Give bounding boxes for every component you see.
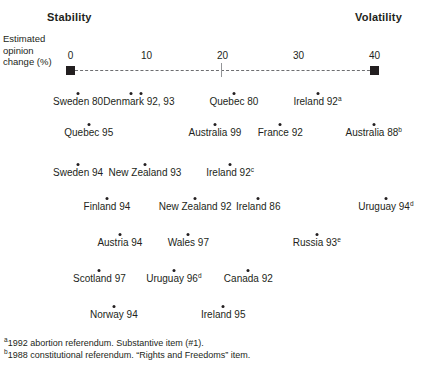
data-point-label: Ireland 86 — [236, 201, 280, 213]
x-axis-tick-label: 40 — [369, 50, 380, 61]
axis-tick-mark-20 — [221, 63, 222, 77]
footnote-item: b1988 constitutional referendum. “Rights… — [4, 349, 424, 361]
data-point-label: Quebec 95 — [64, 127, 113, 139]
data-point-label: France 92 — [258, 127, 303, 139]
data-point-label: Ireland 92a — [293, 96, 341, 108]
data-point-dot — [187, 233, 190, 236]
data-point-dot — [130, 92, 133, 95]
data-point-dot — [143, 163, 146, 166]
footnote-marker: d — [198, 272, 202, 279]
x-axis-tick-label: 10 — [141, 50, 152, 61]
data-point-dot — [77, 163, 80, 166]
data-point-dot — [77, 92, 80, 95]
data-point-label: Sweden 80 — [53, 96, 103, 108]
data-point-label: Australia 99 — [188, 127, 241, 139]
x-axis-tick-label: 0 — [68, 50, 74, 61]
opinion-change-scatter-figure: Stability Volatility Estimated opinion c… — [0, 0, 431, 366]
footnote-marker: a — [338, 95, 342, 102]
footnote-marker: a — [4, 336, 8, 343]
axis-caption-line-1: Estimated — [3, 33, 65, 45]
data-point-label: Sweden 94 — [53, 167, 103, 179]
axis-caption: Estimated opinion change (%) — [3, 33, 65, 68]
data-point-dot — [372, 123, 375, 126]
data-point-label: Denmark 92, 93 — [103, 96, 174, 108]
footnote-list: a1992 abortion referendum. Substantive i… — [4, 337, 424, 361]
data-point-dot — [315, 233, 318, 236]
x-axis-tick-label: 20 — [217, 50, 228, 61]
axis-endcap-right — [370, 66, 379, 75]
data-point-dot — [87, 123, 90, 126]
footnote-marker: e — [337, 236, 341, 243]
footnote-marker: c — [251, 166, 254, 173]
data-point-dot — [112, 305, 115, 308]
axis-caption-line-2: opinion — [3, 45, 65, 57]
x-axis-line — [70, 70, 375, 71]
data-point-label: Ireland 92c — [206, 167, 254, 179]
data-point-label: Uruguay 94d — [358, 201, 413, 213]
axis-endcap-left — [66, 66, 75, 75]
data-point-dot — [213, 123, 216, 126]
data-point-label: Quebec 80 — [209, 96, 258, 108]
data-point-dot — [140, 92, 143, 95]
data-point-label: Finland 94 — [84, 201, 131, 213]
data-point-label: Russia 93e — [293, 237, 341, 249]
data-point-dot — [98, 269, 101, 272]
data-point-dot — [118, 233, 121, 236]
data-point-dot — [384, 197, 387, 200]
data-point-label: Australia 88b — [346, 127, 402, 139]
data-point-dot — [105, 197, 108, 200]
data-point-label: Ireland 95 — [201, 309, 245, 321]
data-point-dot — [222, 305, 225, 308]
data-point-label: New Zealand 92 — [159, 201, 232, 213]
data-point-label: New Zealand 93 — [109, 167, 182, 179]
data-point-dot — [257, 197, 260, 200]
footnote-marker: b — [398, 126, 402, 133]
pole-label-volatility: Volatility — [355, 11, 402, 23]
data-point-dot — [316, 92, 319, 95]
footnote-marker: d — [410, 200, 414, 207]
footnote-item: a1992 abortion referendum. Substantive i… — [4, 337, 424, 349]
axis-caption-line-3: change (%) — [3, 56, 65, 68]
data-point-dot — [232, 92, 235, 95]
data-point-dot — [194, 197, 197, 200]
data-point-label: Austria 94 — [97, 237, 142, 249]
footnote-marker: b — [4, 348, 8, 355]
data-point-label: Canada 92 — [224, 273, 273, 285]
data-point-label: Wales 97 — [168, 237, 209, 249]
pole-label-stability: Stability — [47, 11, 92, 23]
data-point-dot — [279, 123, 282, 126]
data-point-dot — [172, 269, 175, 272]
data-point-label: Uruguay 96d — [146, 273, 201, 285]
data-point-label: Norway 94 — [90, 309, 138, 321]
data-point-dot — [247, 269, 250, 272]
data-point-label: Scotland 97 — [73, 273, 126, 285]
data-point-dot — [229, 163, 232, 166]
x-axis-tick-label: 30 — [293, 50, 304, 61]
